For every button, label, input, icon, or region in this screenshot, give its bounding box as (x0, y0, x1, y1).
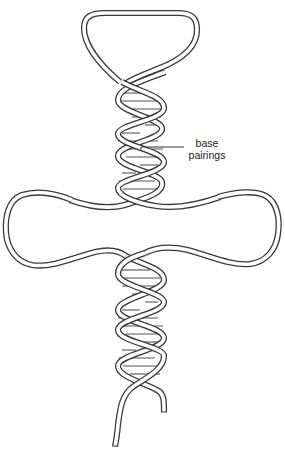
top-hairpin-loop (84, 13, 197, 84)
label-line-2: pairings (184, 149, 230, 161)
left-loop (6, 193, 126, 266)
right-loop (145, 192, 279, 264)
lower-helix (115, 253, 164, 446)
label-line-1: base (184, 137, 230, 149)
dna-cruciform-diagram (0, 0, 285, 451)
base-pairings-label: base pairings (184, 137, 230, 161)
